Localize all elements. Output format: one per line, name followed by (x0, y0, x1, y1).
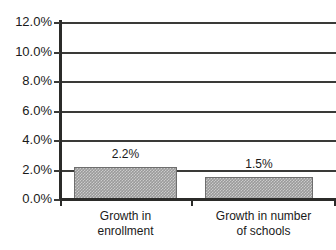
y-axis-label-8: 8.0% (0, 74, 52, 87)
y-tick-10 (54, 52, 60, 54)
gridline-12 (60, 22, 336, 24)
y-tick-6 (54, 111, 60, 113)
category-tick-left (60, 199, 62, 206)
plot-area (60, 22, 336, 199)
y-axis-label-10: 10.0% (0, 45, 52, 58)
category-label-growth-in-enrollment: Growth in enrollment (60, 209, 191, 239)
bar-growth-in-enrollment (74, 167, 177, 200)
y-axis-label-12: 12.0% (0, 15, 52, 28)
y-axis-label-0: 0.0% (0, 192, 52, 205)
y-axis-label-2: 2.0% (0, 163, 52, 176)
gridline-4 (60, 140, 336, 142)
y-tick-8 (54, 81, 60, 83)
gridline-6 (60, 111, 336, 113)
y-tick-12 (54, 22, 60, 24)
y-axis-label-4: 4.0% (0, 133, 52, 146)
y-tick-4 (54, 140, 60, 142)
bar-chart: 12.0% 10.0% 8.0% 6.0% 4.0% 2.0% 0.0% 2.2… (0, 0, 336, 250)
y-tick-2 (54, 170, 60, 172)
category-tick-middle (191, 199, 193, 206)
category-label-line1: Growth in (100, 209, 151, 223)
category-label-growth-in-number-of-schools: Growth in number of schools (191, 209, 336, 239)
data-label-growth-in-number-of-schools: 1.5% (205, 158, 313, 171)
gridline-10 (60, 52, 336, 54)
category-label-line2: of schools (191, 224, 336, 239)
data-label-growth-in-enrollment: 2.2% (74, 148, 177, 161)
bar-growth-in-number-of-schools (205, 177, 313, 199)
y-axis-label-6: 6.0% (0, 104, 52, 117)
gridline-8 (60, 81, 336, 83)
category-label-line1: Growth in number (216, 209, 311, 223)
category-label-line2: enrollment (60, 224, 191, 239)
x-axis-baseline (60, 198, 336, 201)
